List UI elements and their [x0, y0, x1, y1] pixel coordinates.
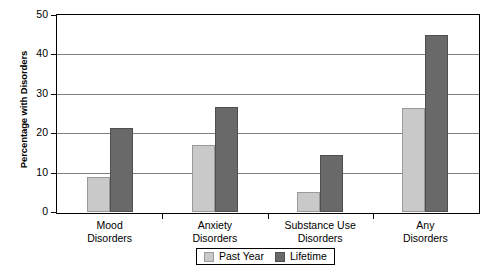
y-tick-label: 50 — [8, 9, 48, 20]
bar-past-year — [87, 177, 110, 212]
x-axis-label: AnxietyDisorders — [162, 219, 267, 244]
bar-past-year — [402, 108, 425, 212]
y-axis-title: Percentage with Disorders — [18, 10, 29, 210]
y-tick-mark — [51, 94, 56, 95]
legend-swatch-past-year — [204, 252, 214, 262]
x-axis-label-line2: Disorders — [268, 232, 373, 245]
x-axis-label: Substance UseDisorders — [268, 219, 373, 244]
chart-legend: Past Year Lifetime — [196, 248, 335, 265]
legend-item-lifetime: Lifetime — [275, 251, 327, 262]
y-tick-mark — [51, 54, 56, 55]
x-axis-label-line1: Any — [416, 219, 434, 231]
x-axis-label-line1: Mood — [96, 219, 122, 231]
y-tick-mark — [51, 15, 56, 16]
bar-lifetime — [320, 155, 343, 212]
y-tick-label: 40 — [8, 48, 48, 59]
y-tick-label: 10 — [8, 167, 48, 178]
bar-lifetime — [425, 35, 448, 212]
y-tick-mark — [51, 212, 56, 213]
bar-lifetime — [110, 128, 133, 212]
legend-item-past-year: Past Year — [204, 251, 264, 262]
bar-chart: Percentage with Disorders 01020304050 Mo… — [0, 0, 490, 275]
y-tick-label: 20 — [8, 127, 48, 138]
x-axis-label-line1: Substance Use — [285, 219, 356, 231]
x-axis-label-line1: Anxiety — [198, 219, 232, 231]
bar-lifetime — [215, 107, 238, 212]
y-tick-label: 30 — [8, 88, 48, 99]
bar-past-year — [297, 192, 320, 212]
legend-label-lifetime: Lifetime — [290, 251, 327, 262]
y-tick-label: 0 — [8, 206, 48, 217]
legend-label-past-year: Past Year — [219, 251, 264, 262]
x-axis-label: AnyDisorders — [373, 219, 478, 244]
x-axis-label-line2: Disorders — [57, 232, 162, 245]
x-axis-label-line2: Disorders — [162, 232, 267, 245]
bar-past-year — [192, 145, 215, 212]
x-axis-label: MoodDisorders — [57, 219, 162, 244]
x-axis-label-line2: Disorders — [373, 232, 478, 245]
legend-swatch-lifetime — [275, 252, 285, 262]
y-tick-mark — [51, 133, 56, 134]
y-tick-mark — [51, 173, 56, 174]
bars-layer — [57, 15, 478, 212]
